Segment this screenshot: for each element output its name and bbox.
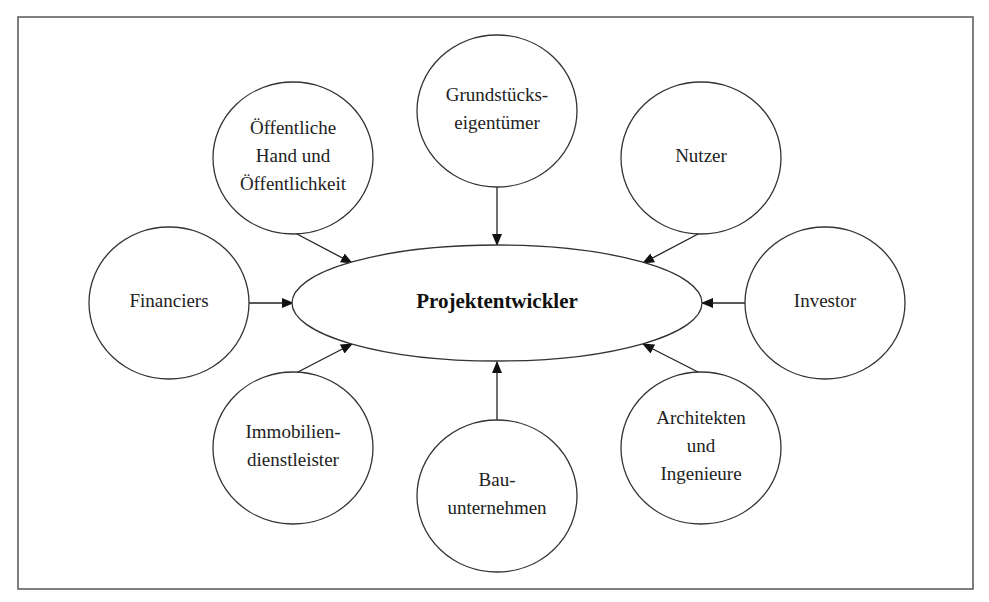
- center-label: Projektentwickler: [416, 289, 578, 313]
- stakeholder-diagram: Grundstücks-eigentümerÖffentlicheHand un…: [0, 0, 989, 602]
- node-label-line: unternehmen: [447, 497, 547, 518]
- node-label-line: Architekten: [656, 407, 746, 428]
- arrow-nutzer-to-projektentwickler: [643, 233, 700, 263]
- node-architekten-ingenieure: ArchitektenundIngenieure: [621, 372, 781, 524]
- node-label-line: eigentümer: [454, 112, 540, 133]
- node-label-line: und: [687, 435, 716, 456]
- node-circle: [213, 372, 373, 524]
- arrow-immobiliendienstleister-to-projektentwickler: [296, 344, 352, 373]
- node-label-line: Ingenieure: [660, 463, 741, 484]
- node-circle: [417, 420, 577, 572]
- node-immobiliendienstleister: Immobilien-dienstleister: [213, 372, 373, 524]
- node-grundstueckseigentuemer: Grundstücks-eigentümer: [417, 35, 577, 187]
- node-label-line: Nutzer: [675, 145, 727, 166]
- node-oeffentliche-hand: ÖffentlicheHand undÖffentlichkeit: [213, 82, 373, 234]
- arrow-oeffentliche-hand-to-projektentwickler: [295, 233, 352, 263]
- node-circle: [417, 35, 577, 187]
- node-label-line: Bau-: [479, 469, 516, 490]
- node-label-line: Financiers: [129, 290, 208, 311]
- node-investor: Investor: [745, 227, 905, 379]
- node-label-line: dienstleister: [247, 449, 339, 470]
- node-nutzer: Nutzer: [621, 82, 781, 234]
- node-label-line: Grundstücks-: [446, 84, 548, 105]
- node-label-line: Investor: [794, 290, 857, 311]
- node-label-line: Hand und: [256, 145, 331, 166]
- node-label-line: Immobilien-: [246, 421, 341, 442]
- arrow-architekten-ingenieure-to-projektentwickler: [643, 344, 700, 373]
- node-label-line: Öffentlichkeit: [240, 173, 347, 194]
- center-node-projektentwickler: Projektentwickler: [292, 245, 702, 361]
- node-bauunternehmen: Bau-unternehmen: [417, 420, 577, 572]
- node-financiers: Financiers: [89, 227, 249, 379]
- node-label-line: Öffentliche: [250, 117, 336, 138]
